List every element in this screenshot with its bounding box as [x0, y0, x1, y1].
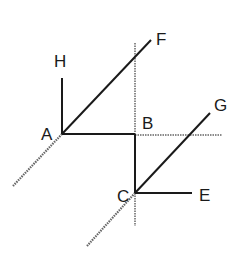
geometry-diagram: H F A B G C E — [0, 0, 239, 256]
segment-AF — [62, 40, 151, 134]
label-H: H — [54, 52, 66, 71]
label-C: C — [117, 187, 129, 206]
label-B: B — [142, 114, 153, 133]
label-G: G — [214, 96, 227, 115]
label-E: E — [199, 186, 210, 205]
extension-beyond-A — [13, 134, 62, 186]
label-F: F — [156, 30, 166, 49]
label-A: A — [41, 125, 53, 144]
